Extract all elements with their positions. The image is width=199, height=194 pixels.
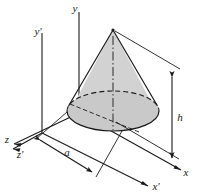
axis-label-x: x — [183, 166, 189, 178]
axis-label-z-prime: z' — [16, 148, 24, 160]
axis-label-z: z — [4, 133, 10, 145]
axis-line-x-prime — [42, 133, 148, 186]
cone-solid-group — [67, 28, 159, 132]
radius-extension-right — [96, 131, 122, 177]
axis-label-y: y — [72, 2, 78, 14]
dimension-label-h: h — [177, 111, 183, 123]
cone-diagram-canvas: y x z y' x' z' a h — [0, 0, 199, 194]
x-prime-axis-arrowhead — [141, 181, 148, 186]
height-extension-bottom — [116, 122, 179, 159]
axis-label-x-prime: x' — [151, 180, 160, 192]
dimension-label-a: a — [64, 146, 70, 158]
radius-extension-left — [36, 112, 67, 139]
cone-diagram-figure: y x z y' x' z' a h — [0, 0, 199, 194]
axis-line-z-prime — [13, 133, 42, 149]
cone-apex-point — [111, 28, 114, 31]
axis-label-y-prime: y' — [33, 25, 42, 37]
